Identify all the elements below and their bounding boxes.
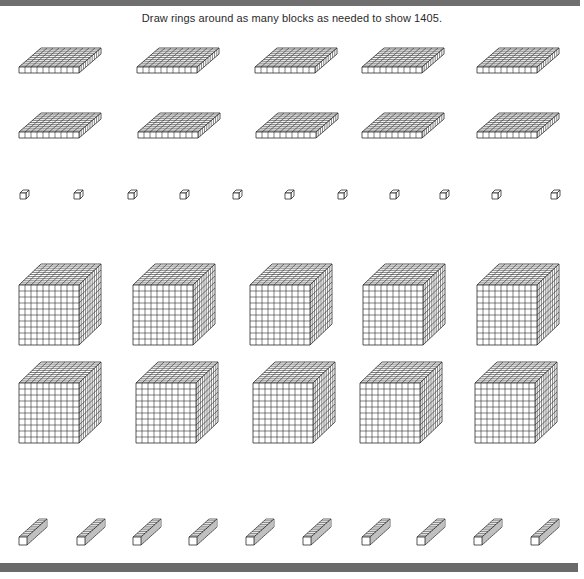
- unit-cube-block[interactable]: [128, 190, 137, 199]
- hundreds-flats-group: [19, 48, 559, 138]
- unit-cube-block[interactable]: [390, 190, 399, 199]
- thousands-cube-block[interactable]: [136, 362, 218, 443]
- tens-rod-block[interactable]: [417, 519, 445, 545]
- tens-rods-group: [19, 519, 559, 545]
- thousands-cube-block[interactable]: [477, 264, 559, 345]
- thousands-cube-block[interactable]: [475, 362, 557, 443]
- base-ten-blocks-area: [0, 0, 584, 579]
- unit-cube-block[interactable]: [180, 190, 189, 199]
- unit-cube-block[interactable]: [285, 190, 294, 199]
- hundreds-flat-block[interactable]: [362, 113, 444, 138]
- tens-rod-block[interactable]: [77, 519, 105, 545]
- hundreds-flat-block[interactable]: [19, 113, 101, 138]
- thousands-cubes-group: [19, 264, 559, 443]
- hundreds-flat-block[interactable]: [137, 48, 219, 73]
- tens-rod-block[interactable]: [362, 519, 390, 545]
- thousands-cube-block[interactable]: [250, 264, 332, 345]
- unit-cube-block[interactable]: [74, 190, 83, 199]
- thousands-cube-block[interactable]: [360, 362, 442, 443]
- thousands-cube-block[interactable]: [19, 362, 101, 443]
- bottom-border-bar: [0, 563, 578, 572]
- thousands-cube-block[interactable]: [19, 264, 101, 345]
- thousands-cube-block[interactable]: [363, 264, 445, 345]
- unit-cube-block[interactable]: [233, 190, 242, 199]
- thousands-cube-block[interactable]: [253, 362, 335, 443]
- tens-rod-block[interactable]: [246, 519, 274, 545]
- tens-rod-block[interactable]: [531, 519, 559, 545]
- hundreds-flat-block[interactable]: [255, 48, 337, 73]
- unit-cube-block[interactable]: [338, 190, 347, 199]
- tens-rod-block[interactable]: [19, 519, 47, 545]
- unit-cube-block[interactable]: [551, 190, 560, 199]
- tens-rod-block[interactable]: [474, 519, 502, 545]
- hundreds-flat-block[interactable]: [362, 48, 444, 73]
- tens-rod-block[interactable]: [189, 519, 217, 545]
- hundreds-flat-block[interactable]: [256, 113, 338, 138]
- hundreds-flat-block[interactable]: [477, 113, 559, 138]
- tens-rod-block[interactable]: [303, 519, 331, 545]
- tens-rod-block[interactable]: [133, 519, 161, 545]
- thousands-cube-block[interactable]: [133, 264, 215, 345]
- unit-cube-block[interactable]: [492, 190, 501, 199]
- unit-cube-block[interactable]: [440, 190, 449, 199]
- hundreds-flat-block[interactable]: [138, 113, 220, 138]
- unit-cube-block[interactable]: [20, 190, 29, 199]
- hundreds-flat-block[interactable]: [477, 48, 559, 73]
- hundreds-flat-block[interactable]: [19, 48, 101, 73]
- unit-cubes-group: [20, 190, 560, 199]
